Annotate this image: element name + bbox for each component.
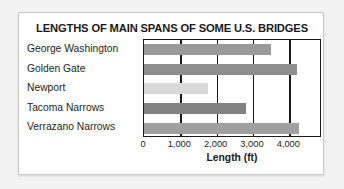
bar-tacoma-narrows <box>144 103 246 114</box>
x-tick-label-1000: 1,000 <box>168 139 191 149</box>
category-label-tacoma-narrows: Tacoma Narrows <box>27 98 141 118</box>
bar-verrazano-narrows <box>144 123 299 134</box>
chart-title: LENGTHS OF MAIN SPANS OF SOME U.S. BRIDG… <box>19 22 325 34</box>
bar-row <box>144 60 320 80</box>
category-axis-labels: George WashingtonGolden GateNewportTacom… <box>27 39 141 137</box>
x-axis-title: Length (ft) <box>143 152 321 163</box>
category-label-golden-gate: Golden Gate <box>27 59 141 79</box>
bar-row <box>144 99 320 119</box>
category-label-newport: Newport <box>27 78 141 98</box>
x-axis-tick-labels: 01,0002,0003,0004,000 <box>143 139 321 153</box>
x-tick-label-2000: 2,000 <box>204 139 227 149</box>
category-label-george-washington: George Washington <box>27 39 141 59</box>
x-tick-label-3000: 3,000 <box>240 139 263 149</box>
bar-chart-figure: LENGTHS OF MAIN SPANS OF SOME U.S. BRIDG… <box>0 0 344 189</box>
bar-row <box>144 40 320 60</box>
x-tick-label-0: 0 <box>140 139 145 149</box>
category-label-verrazano-narrows: Verrazano Narrows <box>27 117 141 137</box>
bar-row <box>144 79 320 99</box>
bar-row <box>144 118 320 138</box>
bar-series <box>144 40 320 136</box>
bar-newport <box>144 83 208 94</box>
chart-card: LENGTHS OF MAIN SPANS OF SOME U.S. BRIDG… <box>18 12 324 175</box>
bar-george-washington <box>144 44 271 55</box>
plot-area <box>143 39 321 137</box>
x-tick-label-4000: 4,000 <box>277 139 300 149</box>
bar-golden-gate <box>144 64 297 75</box>
